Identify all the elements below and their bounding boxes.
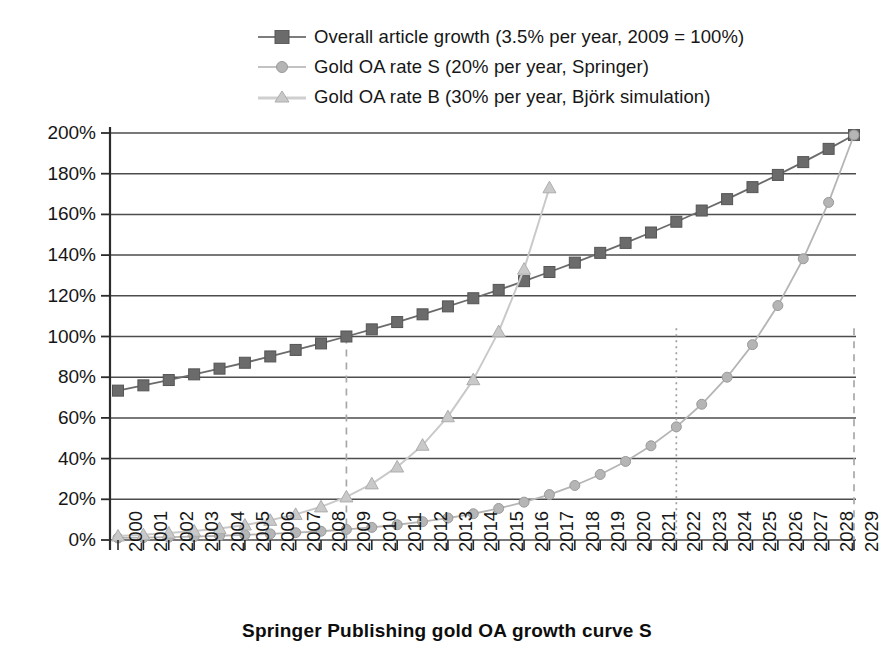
- data-point-overall-article-growth-3-5-per-yea-22: [671, 216, 682, 227]
- series-line-gold-oa-rate-b-30-per-year-bj-rk-s: [118, 188, 549, 536]
- x-axis-label-2004: 2004: [227, 511, 249, 552]
- data-point-overall-article-growth-3-5-per-yea-10: [366, 324, 377, 335]
- data-point-overall-article-growth-3-5-per-yea-19: [595, 247, 606, 258]
- data-point-overall-article-growth-3-5-per-yea-24: [722, 194, 733, 205]
- x-axis-label-2000: 2000: [125, 511, 147, 552]
- x-axis-label-2017: 2017: [556, 511, 578, 552]
- data-point-overall-article-growth-3-5-per-yea-3: [189, 369, 200, 380]
- y-axis-label-0%: 0%: [14, 529, 96, 551]
- data-point-gold-oa-rate-s-20-per-year-springe-23: [697, 399, 707, 409]
- data-point-gold-oa-rate-s-20-per-year-springe-27: [798, 254, 808, 264]
- x-axis-label-2010: 2010: [379, 511, 401, 552]
- y-axis-label-60%: 60%: [14, 407, 96, 429]
- x-axis-label-2025: 2025: [759, 511, 781, 552]
- data-point-gold-oa-rate-s-20-per-year-springe-26: [773, 301, 783, 311]
- data-point-overall-article-growth-3-5-per-yea-5: [239, 357, 250, 368]
- data-point-gold-oa-rate-s-20-per-year-springe-24: [722, 372, 732, 382]
- data-point-gold-oa-rate-s-20-per-year-springe-18: [570, 480, 580, 490]
- x-axis-label-2011: 2011: [404, 512, 426, 552]
- x-axis-label-2013: 2013: [455, 511, 477, 552]
- chart-plot-area: [0, 0, 894, 653]
- figure-caption: Springer Publishing gold OA growth curve…: [0, 620, 894, 642]
- x-axis-label-2007: 2007: [303, 511, 325, 552]
- x-axis-label-2003: 2003: [201, 511, 223, 552]
- x-axis-label-2014: 2014: [480, 511, 502, 552]
- data-point-gold-oa-rate-b-30-per-year-bj-rk-s-16: [518, 263, 531, 275]
- data-point-gold-oa-rate-s-20-per-year-springe-17: [544, 490, 554, 500]
- data-point-overall-article-growth-3-5-per-yea-18: [569, 257, 580, 268]
- figure: Overall article growth (3.5% per year, 2…: [0, 0, 894, 653]
- x-axis-label-2009: 2009: [353, 511, 375, 552]
- x-axis-label-2029: 2029: [861, 511, 883, 552]
- data-point-gold-oa-rate-s-20-per-year-springe-19: [595, 469, 605, 479]
- data-point-gold-oa-rate-s-20-per-year-springe-21: [646, 441, 656, 451]
- data-point-gold-oa-rate-s-20-per-year-springe-20: [621, 456, 631, 466]
- data-point-overall-article-growth-3-5-per-yea-4: [214, 363, 225, 374]
- x-axis-label-2026: 2026: [785, 511, 807, 552]
- y-axis-label-20%: 20%: [14, 488, 96, 510]
- x-axis-label-2001: 2001: [150, 511, 172, 552]
- x-axis-label-2022: 2022: [683, 511, 705, 552]
- y-axis-label-40%: 40%: [14, 448, 96, 470]
- data-point-overall-article-growth-3-5-per-yea-23: [696, 205, 707, 216]
- data-point-gold-oa-rate-s-20-per-year-springe-16: [519, 497, 529, 507]
- x-axis-label-2018: 2018: [582, 511, 604, 552]
- axis-ticks: [101, 133, 854, 550]
- x-axis-label-2015: 2015: [506, 511, 528, 552]
- y-axis-label-100%: 100%: [14, 326, 96, 348]
- data-point-overall-article-growth-3-5-per-yea-8: [316, 338, 327, 349]
- data-point-overall-article-growth-3-5-per-yea-20: [620, 237, 631, 248]
- x-axis-label-2005: 2005: [252, 511, 274, 552]
- data-point-overall-article-growth-3-5-per-yea-9: [341, 331, 352, 342]
- data-point-gold-oa-rate-s-20-per-year-springe-28: [824, 197, 834, 207]
- data-point-overall-article-growth-3-5-per-yea-11: [392, 317, 403, 328]
- x-axis-label-2006: 2006: [277, 511, 299, 552]
- data-point-overall-article-growth-3-5-per-yea-0: [113, 385, 124, 396]
- data-point-overall-article-growth-3-5-per-yea-1: [138, 380, 149, 391]
- x-axis-label-2012: 2012: [430, 511, 452, 552]
- data-point-overall-article-growth-3-5-per-yea-25: [747, 182, 758, 193]
- data-point-gold-oa-rate-b-30-per-year-bj-rk-s-15: [492, 325, 505, 337]
- data-point-gold-oa-rate-b-30-per-year-bj-rk-s-13: [441, 410, 454, 422]
- x-axis-label-2016: 2016: [531, 511, 553, 552]
- x-axis-label-2023: 2023: [709, 511, 731, 552]
- x-axis-label-2021: 2021: [658, 511, 680, 552]
- x-axis-label-2024: 2024: [734, 511, 756, 552]
- y-axis-label-160%: 160%: [14, 203, 96, 225]
- data-point-overall-article-growth-3-5-per-yea-7: [290, 344, 301, 355]
- data-point-overall-article-growth-3-5-per-yea-28: [823, 143, 834, 154]
- data-point-overall-article-growth-3-5-per-yea-27: [798, 157, 809, 168]
- data-point-overall-article-growth-3-5-per-yea-12: [417, 309, 428, 320]
- series-gold-oa-rate-b-30-per-year-bj-rk-s: [112, 181, 556, 541]
- data-point-gold-oa-rate-s-20-per-year-springe-22: [671, 422, 681, 432]
- data-point-overall-article-growth-3-5-per-yea-13: [442, 301, 453, 312]
- x-axis-label-2028: 2028: [836, 511, 858, 552]
- data-point-gold-oa-rate-s-20-per-year-springe-29: [849, 130, 859, 140]
- data-point-overall-article-growth-3-5-per-yea-6: [265, 351, 276, 362]
- annotation-lines: [346, 328, 854, 540]
- y-axis-label-120%: 120%: [14, 285, 96, 307]
- gridlines: [110, 133, 856, 540]
- y-axis-label-180%: 180%: [14, 163, 96, 185]
- data-point-overall-article-growth-3-5-per-yea-21: [645, 227, 656, 238]
- y-axis-label-200%: 200%: [14, 122, 96, 144]
- x-axis-label-2020: 2020: [633, 511, 655, 552]
- x-axis-label-2002: 2002: [176, 511, 198, 552]
- data-point-gold-oa-rate-b-30-per-year-bj-rk-s-9: [340, 490, 353, 502]
- x-axis-label-2019: 2019: [607, 511, 629, 552]
- data-point-overall-article-growth-3-5-per-yea-14: [468, 293, 479, 304]
- y-axis-label-140%: 140%: [14, 244, 96, 266]
- x-axis-label-2027: 2027: [810, 511, 832, 552]
- y-axis-label-80%: 80%: [14, 366, 96, 388]
- data-point-overall-article-growth-3-5-per-yea-17: [544, 266, 555, 277]
- data-point-gold-oa-rate-b-30-per-year-bj-rk-s-17: [543, 181, 556, 193]
- data-point-overall-article-growth-3-5-per-yea-2: [163, 375, 174, 386]
- data-point-gold-oa-rate-b-30-per-year-bj-rk-s-10: [365, 477, 378, 489]
- chart-canvas: [0, 0, 894, 653]
- data-point-overall-article-growth-3-5-per-yea-15: [493, 284, 504, 295]
- x-axis-label-2008: 2008: [328, 511, 350, 552]
- data-point-overall-article-growth-3-5-per-yea-26: [772, 169, 783, 180]
- data-point-gold-oa-rate-s-20-per-year-springe-25: [747, 340, 757, 350]
- data-point-gold-oa-rate-b-30-per-year-bj-rk-s-14: [467, 373, 480, 385]
